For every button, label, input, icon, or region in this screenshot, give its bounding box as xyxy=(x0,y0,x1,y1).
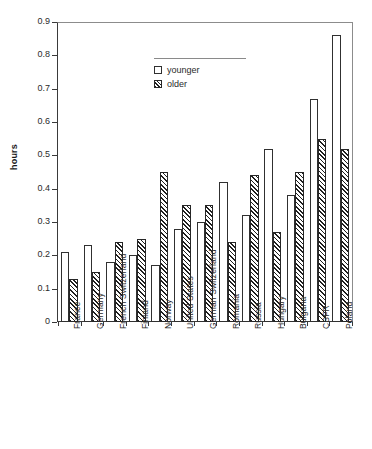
legend-swatch-older-icon xyxy=(154,80,162,88)
x-axis-label: France xyxy=(73,302,82,329)
figure-caption xyxy=(60,440,360,449)
bar-younger xyxy=(151,265,159,322)
x-axis-tickmark xyxy=(58,322,59,326)
legend-entry-older: older xyxy=(154,77,246,90)
y-axis-tick-label: 0.2 xyxy=(16,250,50,259)
x-axis-label: Poland xyxy=(345,302,354,329)
bar-younger xyxy=(61,252,69,322)
bar-group xyxy=(61,22,78,322)
x-axis-label: CSFR xyxy=(322,305,331,329)
x-axis-label: Norway xyxy=(164,299,173,329)
bar-younger xyxy=(242,215,250,322)
y-axis-tick-label: 0.6 xyxy=(16,117,50,126)
y-axis-tick-label: 0.4 xyxy=(16,184,50,193)
bar-older xyxy=(341,149,349,322)
y-axis-tick-label: 0.8 xyxy=(16,50,50,59)
y-axis-tick-label: 0.1 xyxy=(16,284,50,293)
bar-younger xyxy=(197,222,205,322)
x-axis-label: German Switzerland xyxy=(209,249,218,329)
legend-label-younger: younger xyxy=(167,65,200,75)
x-axis-label: Hungary xyxy=(277,296,286,329)
legend-entry-younger: younger xyxy=(154,63,246,76)
bar-younger xyxy=(219,182,227,322)
y-axis-tick-label: 0.7 xyxy=(16,84,50,93)
bar-group xyxy=(332,22,349,322)
bar-group xyxy=(264,22,281,322)
bar-younger xyxy=(332,35,340,322)
y-axis-tick-label: 0.5 xyxy=(16,150,50,159)
x-axis-label: Bulgaria xyxy=(299,297,308,329)
legend-label-older: older xyxy=(167,79,187,89)
legend: younger older xyxy=(154,58,246,91)
x-axis-label: Romania xyxy=(232,294,241,329)
bar-group xyxy=(84,22,101,322)
y-axis-tick-label: 0.9 xyxy=(16,17,50,26)
bar-younger xyxy=(287,195,295,322)
bar-younger xyxy=(264,149,272,322)
bar-younger xyxy=(129,255,137,322)
bar-older xyxy=(318,139,326,322)
x-axis-label: French Switzerland xyxy=(119,254,128,329)
bar-younger xyxy=(106,262,114,322)
y-axis-tick-label: 0.3 xyxy=(16,217,50,226)
bar-chart: hours 0.90.80.70.60.50.40.30.20.10 Franc… xyxy=(0,0,372,449)
legend-swatch-younger-icon xyxy=(154,66,162,74)
bar-older xyxy=(250,175,258,322)
bar-group xyxy=(310,22,327,322)
x-axis-label: Finland xyxy=(141,300,150,329)
bar-younger xyxy=(310,99,318,322)
x-axis-label: Germany xyxy=(96,293,105,329)
bar-group xyxy=(129,22,146,322)
bar-younger xyxy=(84,245,92,322)
bar-younger xyxy=(174,229,182,322)
bar-group xyxy=(287,22,304,322)
y-axis-tick-label: 0 xyxy=(16,317,50,326)
x-axis-label: United States xyxy=(186,276,195,329)
x-axis-label: Russia xyxy=(254,302,263,329)
y-axis-tickmark xyxy=(52,322,57,323)
